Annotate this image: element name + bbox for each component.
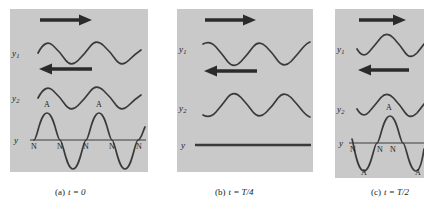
arrow-right-icon xyxy=(205,15,256,26)
wave-y1-curve xyxy=(38,42,141,64)
panel-c-label-y2: y2 xyxy=(337,105,344,114)
node-label: N xyxy=(136,143,142,151)
node-label: N xyxy=(83,143,89,151)
caption-a-expression: t = 0 xyxy=(68,187,86,197)
node-label: N xyxy=(31,143,37,151)
node-label: N xyxy=(350,146,356,154)
wave-y1-curve xyxy=(357,34,424,56)
caption-panel-b: (b)t = T/4 xyxy=(215,188,254,197)
antinode-label-below: A xyxy=(361,169,367,177)
panel-c: y1 y2 y A N N N A A xyxy=(335,9,424,178)
caption-b-expression: t = T/4 xyxy=(229,187,254,197)
caption-b-letter: (b) xyxy=(215,187,226,197)
caption-panel-c: (c)t = T/2 xyxy=(371,188,409,197)
caption-c-letter: (c) xyxy=(371,187,381,197)
panel-c-label-y1: y1 xyxy=(337,45,344,54)
arrow-left-icon xyxy=(358,65,409,76)
arrow-right-icon xyxy=(40,15,92,26)
antinode-label: A xyxy=(386,104,392,112)
panel-c-label-y: y xyxy=(339,139,343,148)
panel-b-label-y2: y2 xyxy=(179,104,186,113)
antinode-label-below: A xyxy=(415,169,421,177)
node-label: N xyxy=(109,143,115,151)
resultant-wave-curve xyxy=(34,113,145,169)
caption-a-letter: (a) xyxy=(55,187,65,197)
panel-b-graphics xyxy=(177,9,313,172)
caption-c-expression: t = T/2 xyxy=(384,187,409,197)
panel-a-label-y1: y1 xyxy=(12,49,19,58)
node-label: N xyxy=(377,146,383,154)
panel-a-label-y2: y2 xyxy=(12,94,19,103)
panel-a-label-y: y xyxy=(14,136,18,145)
node-label: N xyxy=(57,143,63,151)
wave-y1-curve xyxy=(203,42,310,65)
panel-a: y1 y2 y A A N N N N N xyxy=(10,9,148,172)
arrow-right-icon xyxy=(359,15,406,26)
arrow-left-icon xyxy=(39,64,92,75)
panel-b-label-y: y xyxy=(181,141,185,150)
antinode-label: A xyxy=(96,101,102,109)
node-label: N xyxy=(390,146,396,154)
antinode-label: A xyxy=(44,101,50,109)
wave-y2-curve xyxy=(38,87,141,109)
wave-y2-curve xyxy=(203,94,310,117)
panel-b-label-y1: y1 xyxy=(179,45,186,54)
standing-wave-figure: y1 y2 y A A N N N N N xyxy=(0,0,424,207)
caption-panel-a: (a)t = 0 xyxy=(55,188,86,197)
panel-b: y1 y2 y xyxy=(177,9,313,172)
arrow-left-icon xyxy=(204,66,257,77)
